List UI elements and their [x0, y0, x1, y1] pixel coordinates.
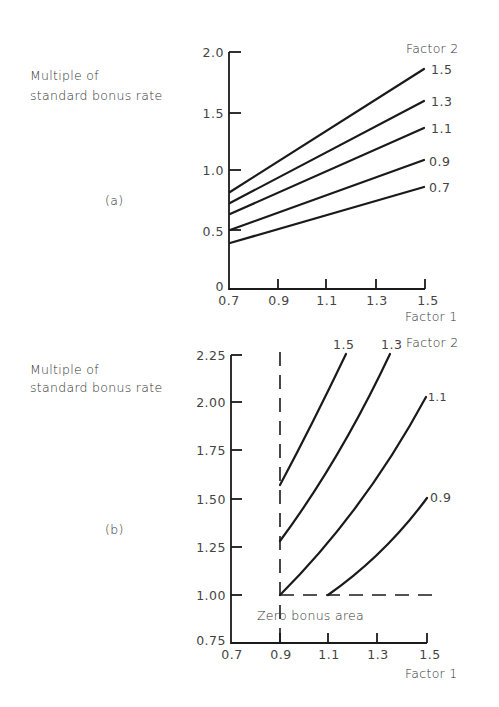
chart-b-x-ticks: 0.7 0.9 1.1 1.3 1.5	[221, 633, 440, 662]
chart-a-series-labels: 1.5 1.3 1.1 0.9 0.7	[429, 62, 452, 195]
chart-b-panel-label: (b)	[105, 522, 124, 537]
chart-a-line-1.3	[230, 101, 424, 203]
chart-a-ytick-1.5: 1.5	[203, 106, 224, 121]
chart-b-curve-0.9	[328, 498, 427, 595]
chart-b-ytick-1.50: 1.50	[196, 492, 226, 507]
chart-b: Multiple of standard bonus rate (b) 2.25…	[30, 335, 459, 681]
chart-b-xtick-0.7: 0.7	[221, 647, 242, 662]
chart-b-ytick-2.00: 2.00	[196, 395, 226, 410]
chart-a-xtick-1.5: 1.5	[417, 293, 438, 308]
chart-b-ylabel-line2: standard bonus rate	[30, 380, 162, 395]
chart-a-series-label-1.3: 1.3	[431, 94, 452, 109]
chart-a-ytick-0: 0	[216, 279, 224, 294]
chart-a-ytick-2.0: 2.0	[203, 45, 224, 60]
chart-a-series-label-1.5: 1.5	[431, 62, 452, 77]
chart-b-ytick-0.75: 0.75	[196, 633, 226, 648]
chart-a-ylabel-line1: Multiple of	[30, 68, 99, 83]
chart-b-ylabel-line1: Multiple of	[30, 362, 99, 377]
chart-b-zero-bonus-annotation: Zero bonus area	[257, 608, 364, 623]
chart-a-xtick-0.9: 0.9	[268, 293, 289, 308]
chart-b-xtick-1.3: 1.3	[367, 647, 388, 662]
chart-a-panel-label: (a)	[105, 193, 123, 208]
chart-b-ytick-1.00: 1.00	[196, 588, 226, 603]
chart-b-legend-title: Factor 2	[406, 335, 459, 350]
chart-a-line-1.5	[230, 69, 424, 192]
chart-b-xtick-1.5: 1.5	[419, 647, 440, 662]
chart-b-xtick-1.1: 1.1	[318, 647, 339, 662]
chart-a-series-label-0.9: 0.9	[429, 154, 450, 169]
chart-a-xtick-1.3: 1.3	[366, 293, 387, 308]
chart-b-axes	[231, 355, 427, 643]
chart-a: Multiple of standard bonus rate (a) 2.0 …	[30, 41, 459, 324]
chart-a-ytick-1.0: 1.0	[203, 163, 224, 178]
figure: Multiple of standard bonus rate (a) 2.0 …	[0, 0, 499, 707]
chart-a-legend-title: Factor 2	[406, 41, 459, 56]
chart-b-ytick-2.25: 2.25	[196, 348, 226, 363]
chart-a-xtick-0.7: 0.7	[218, 293, 239, 308]
chart-a-ytick-0.5: 0.5	[203, 224, 224, 239]
chart-b-xlabel: Factor 1	[405, 666, 458, 681]
chart-a-xtick-1.1: 1.1	[316, 293, 337, 308]
chart-b-ytick-1.25: 1.25	[196, 540, 226, 555]
chart-b-series-label-1.5: 1.5	[333, 337, 354, 352]
chart-a-xlabel: Factor 1	[405, 309, 458, 324]
chart-a-series-label-1.1: 1.1	[431, 121, 452, 136]
chart-b-series-label-1.3: 1.3	[381, 337, 402, 352]
chart-b-series-labels: 1.5 1.3 1.1 0.9	[333, 337, 451, 505]
chart-a-series-label-0.7: 0.7	[429, 180, 450, 195]
chart-b-xtick-0.9: 0.9	[270, 647, 291, 662]
chart-b-y-ticks: 2.25 2.00 1.75 1.50 1.25 1.00 0.75	[196, 348, 242, 648]
chart-a-ylabel-line2: standard bonus rate	[30, 88, 162, 103]
chart-b-series-label-1.1: 1.1	[428, 391, 447, 404]
chart-a-x-ticks: 0.7 0.9 1.1 1.3 1.5	[218, 279, 438, 308]
chart-b-curve-1.5	[280, 354, 346, 485]
chart-b-curve-1.3	[280, 354, 390, 541]
chart-a-y-ticks: 2.0 1.5 1.0 0.5 0	[203, 45, 241, 294]
chart-a-series	[230, 69, 424, 243]
chart-b-series	[280, 354, 427, 595]
chart-b-series-label-0.9: 0.9	[430, 490, 451, 505]
chart-b-ytick-1.75: 1.75	[196, 443, 226, 458]
